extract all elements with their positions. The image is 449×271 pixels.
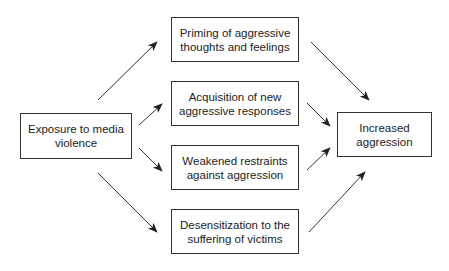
mediator-line: aggressive responses [179, 104, 291, 118]
arrow-source-to-priming [98, 42, 157, 100]
outcome-line-2: aggression [356, 135, 412, 149]
mediator-line: suffering of victims [187, 232, 282, 246]
mediator-line: Desensitization to the [180, 218, 290, 232]
arrow-acquisition-to-outcome [307, 103, 330, 126]
mediator-box-desensitization: Desensitization to the suffering of vict… [171, 209, 299, 254]
arrow-weakened-to-outcome [307, 148, 330, 170]
source-box: Exposure to media violence [20, 113, 132, 159]
outcome-box: Increased aggression [337, 112, 432, 157]
mediator-line: Acquisition of new [189, 90, 282, 104]
mediator-box-weakened: Weakened restraints against aggression [171, 145, 299, 190]
mediator-box-priming: Priming of aggressive thoughts and feeli… [171, 17, 299, 62]
arrow-source-to-weakened [139, 148, 162, 171]
mediator-box-acquisition: Acquisition of new aggressive responses [171, 81, 299, 126]
arrow-priming-to-outcome [311, 42, 369, 100]
mediator-line: Priming of aggressive [180, 26, 291, 40]
arrow-desensitization-to-outcome [309, 172, 365, 232]
source-line-1: Exposure to media [28, 122, 124, 136]
mediator-line: thoughts and feelings [180, 40, 289, 54]
mediator-line: Weakened restraints [182, 154, 287, 168]
media-violence-diagram: Exposure to media violence Priming of ag… [0, 0, 449, 271]
arrow-source-to-acquisition [139, 104, 162, 125]
outcome-line-1: Increased [359, 121, 410, 135]
mediator-line: against aggression [187, 168, 284, 182]
source-line-2: violence [55, 136, 97, 150]
arrow-source-to-desensitization [98, 173, 157, 232]
